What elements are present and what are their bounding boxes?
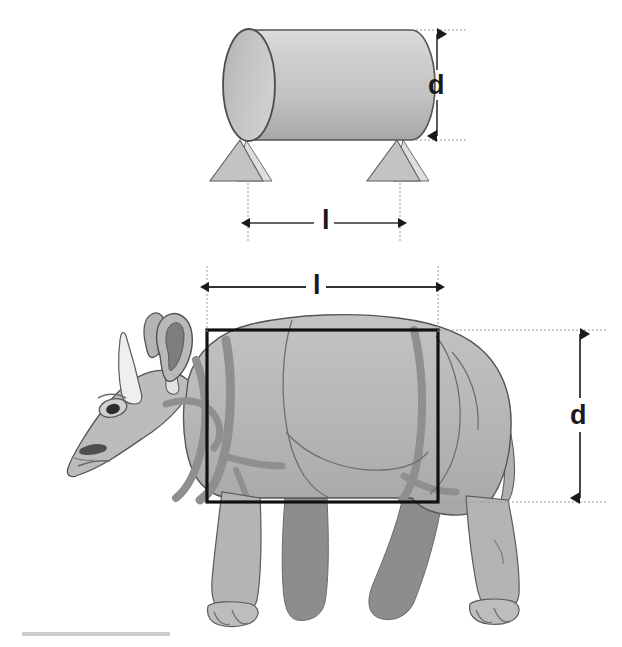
cylinder-l-label: l bbox=[322, 207, 330, 234]
rhino-leg-near-front bbox=[212, 492, 261, 614]
cylinder-d-label: d bbox=[428, 72, 445, 99]
cylinder-body bbox=[249, 30, 435, 140]
rhino-d-label: d bbox=[570, 402, 587, 429]
caption-rule bbox=[22, 632, 170, 636]
cylinder-endcap bbox=[223, 29, 275, 141]
rhino-l-label: l bbox=[313, 272, 321, 299]
rhino-leg-far-front bbox=[282, 486, 328, 620]
figure-canvas bbox=[0, 0, 622, 647]
